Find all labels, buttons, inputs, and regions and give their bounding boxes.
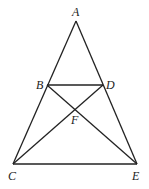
- segment-AC: [13, 21, 76, 164]
- label-A: A: [71, 5, 80, 19]
- triangle-diagram: A B D F C E: [0, 0, 149, 189]
- label-B: B: [36, 78, 44, 92]
- label-F: F: [70, 113, 79, 127]
- label-D: D: [105, 78, 115, 92]
- label-E: E: [131, 169, 140, 183]
- segment-CD: [13, 85, 103, 164]
- segment-AE: [76, 21, 137, 164]
- segment-BE: [47, 85, 137, 164]
- label-C: C: [8, 169, 17, 183]
